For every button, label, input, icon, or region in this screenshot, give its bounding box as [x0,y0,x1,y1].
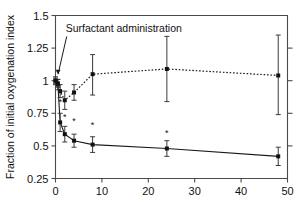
significance-asterisk: * [72,116,76,126]
annotation-leader-line [58,36,67,74]
data-point-marker [72,139,76,143]
annotation-label: Surfactant administration [66,22,182,34]
chart-figure: 0.250.50.7511.251.501020304050Fraction o… [0,0,302,204]
x-tick-label: 0 [52,185,58,197]
significance-asterisk: * [91,120,95,130]
chart-canvas: 0.250.50.7511.251.501020304050Fraction o… [0,0,302,204]
data-point-marker [63,98,67,102]
data-point-marker [165,67,169,71]
x-tick-label: 50 [281,185,293,197]
y-axis-title: Fraction of initial oxygenation index [4,14,16,179]
significance-asterisk: * [63,112,67,122]
x-tick-label: 10 [96,185,108,197]
data-point-marker [91,143,95,147]
data-point-marker [56,81,60,85]
significance-asterisk: * [58,97,62,107]
y-tick-label: 0.25 [27,173,48,185]
data-point-marker [58,120,62,124]
data-point-marker [72,90,76,94]
data-point-marker [63,132,67,136]
significance-asterisk: * [165,128,169,138]
data-point-marker [91,72,95,76]
y-tick-label: 0.5 [33,140,48,152]
x-tick-label: 20 [142,185,154,197]
y-tick-label: 1.5 [33,10,48,22]
data-point-marker [276,73,280,77]
y-tick-label: 0.75 [27,107,48,119]
data-point-marker [165,147,169,151]
x-tick-label: 40 [235,185,247,197]
x-tick-label: 30 [189,185,201,197]
y-tick-label: 1 [42,75,48,87]
data-point-marker [276,154,280,158]
y-tick-label: 1.25 [27,42,48,54]
